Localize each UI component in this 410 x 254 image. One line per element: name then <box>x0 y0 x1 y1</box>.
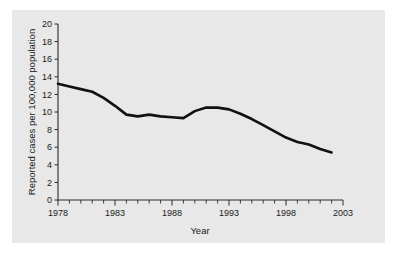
y-tick-label: 6 <box>47 142 52 152</box>
y-tick-label: 14 <box>42 72 52 82</box>
x-tick-label: 1993 <box>219 208 239 218</box>
data-line <box>58 84 332 153</box>
y-axis-title: Reported cases per 100,000 population <box>26 29 37 195</box>
x-tick-label: 1983 <box>105 208 125 218</box>
axes <box>58 24 343 200</box>
y-tick-label: 20 <box>42 19 52 29</box>
x-tick-label: 2003 <box>333 208 353 218</box>
x-tick-label: 1978 <box>48 208 68 218</box>
x-axis-title: Year <box>190 225 209 236</box>
line-chart: 02468101214161820 1978198319881993199820… <box>0 0 410 254</box>
y-tick-label: 16 <box>42 54 52 64</box>
x-axis-tick-labels: 197819831988199319982003 <box>48 208 353 218</box>
y-tick-label: 10 <box>42 107 52 117</box>
y-tick-label: 8 <box>47 125 52 135</box>
y-tick-label: 0 <box>47 195 52 205</box>
axis-lines <box>58 24 343 200</box>
x-tick-label: 1988 <box>162 208 182 218</box>
y-axis-tick-labels: 02468101214161820 <box>42 19 52 205</box>
data-series <box>58 84 332 153</box>
x-tick-label: 1998 <box>276 208 296 218</box>
y-tick-label: 4 <box>47 160 52 170</box>
y-tick-label: 12 <box>42 90 52 100</box>
x-axis-ticks <box>58 200 343 206</box>
y-tick-label: 2 <box>47 178 52 188</box>
chart-figure: 02468101214161820 1978198319881993199820… <box>0 0 410 254</box>
y-tick-label: 18 <box>42 37 52 47</box>
